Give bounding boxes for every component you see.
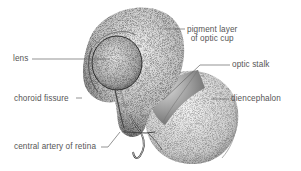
label-diencephalon: diencephalon	[231, 94, 281, 103]
label-pigment-layer-line1: pigment layer	[187, 25, 237, 34]
label-pigment-layer: pigment layer of optic cup	[187, 25, 237, 43]
label-choroid-fissure: choroid fissure	[14, 94, 69, 103]
optic-cup-diagram: lens pigment layer of optic cup optic st…	[0, 0, 301, 171]
leader-central-artery	[101, 132, 120, 147]
label-central-artery: central artery of retina	[14, 142, 96, 151]
lens-shape	[92, 36, 142, 90]
label-optic-stalk: optic stalk	[232, 60, 270, 69]
label-lens: lens	[13, 54, 28, 63]
label-pigment-layer-line2: of optic cup	[187, 34, 237, 43]
